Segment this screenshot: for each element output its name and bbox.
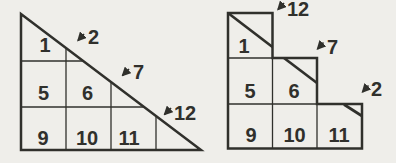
cell-label-11: 11 bbox=[328, 124, 349, 146]
triangle-staircase-diagram: 1 5 6 9 10 11 2 7 12 1 5 6 9 10 1 bbox=[0, 0, 396, 163]
right-figure: 1 5 6 9 10 11 12 7 2 bbox=[228, 0, 382, 149]
arrow-2: 2 bbox=[363, 78, 383, 100]
arrow-12: 12 bbox=[278, 0, 309, 20]
arrow-12-line bbox=[165, 108, 172, 115]
cell-label-5: 5 bbox=[38, 82, 49, 104]
arrow-12-label: 12 bbox=[287, 0, 309, 20]
cell-label-6: 6 bbox=[82, 82, 93, 104]
cell-label-1: 1 bbox=[238, 35, 249, 57]
cell-label-1: 1 bbox=[39, 34, 50, 56]
cell-label-5: 5 bbox=[244, 80, 255, 102]
cell-label-11: 11 bbox=[118, 127, 139, 149]
cell-label-9: 9 bbox=[37, 127, 48, 149]
arrow-12-label: 12 bbox=[174, 102, 196, 124]
arrow-2-label: 2 bbox=[88, 26, 99, 48]
arrow-7-line bbox=[318, 43, 324, 50]
cell-label-6: 6 bbox=[288, 80, 299, 102]
arrow-12-line bbox=[278, 3, 284, 10]
arrow-2-label: 2 bbox=[371, 78, 382, 100]
sliver-12-diagonal bbox=[228, 13, 273, 47]
arrow-7: 7 bbox=[318, 36, 339, 58]
arrow-7-line bbox=[123, 69, 130, 76]
sliver-2-diagonal bbox=[344, 105, 362, 117]
cell-label-10: 10 bbox=[283, 124, 305, 146]
arrow-7-label: 7 bbox=[133, 61, 144, 83]
arrow-7-label: 7 bbox=[327, 36, 338, 58]
left-figure: 1 5 6 9 10 11 2 7 12 bbox=[21, 14, 201, 150]
arrow-2-line bbox=[78, 34, 84, 41]
cell-label-10: 10 bbox=[76, 127, 98, 149]
cell-label-9: 9 bbox=[245, 124, 256, 146]
arrow-12: 12 bbox=[165, 102, 197, 124]
arrow-7: 7 bbox=[123, 61, 145, 83]
arrow-2: 2 bbox=[78, 26, 99, 48]
arrow-2-line bbox=[363, 86, 369, 93]
